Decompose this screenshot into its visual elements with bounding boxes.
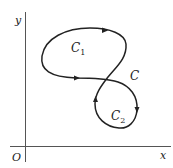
arrow-right-c2-icon <box>135 107 140 113</box>
arrow-bottom-c1-icon <box>74 76 80 81</box>
curve-label-c2: C2 <box>111 109 125 125</box>
y-axis-label: y <box>14 14 22 27</box>
curve-label-c: C <box>130 69 139 83</box>
c2-main: C <box>111 109 120 123</box>
x-axis-label: x <box>160 149 167 162</box>
origin-label: O <box>12 151 21 164</box>
c2-sub: 2 <box>120 116 125 125</box>
curve-diagram: y O x C1 C C2 <box>0 0 173 168</box>
curve-label-c1: C1 <box>71 41 85 57</box>
c1-sub: 1 <box>80 48 85 57</box>
curve-c <box>42 28 137 128</box>
c1-main: C <box>71 41 80 55</box>
arrow-left-c2-icon <box>93 96 98 102</box>
arrow-top-c1-icon <box>102 28 108 34</box>
